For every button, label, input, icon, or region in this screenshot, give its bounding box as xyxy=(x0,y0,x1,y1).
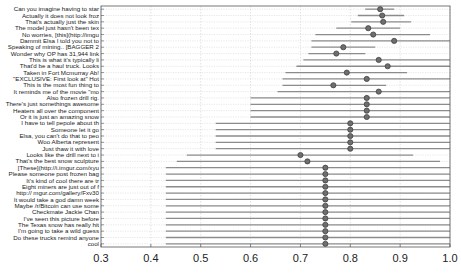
plot-frame xyxy=(101,6,450,247)
data-point xyxy=(323,229,328,234)
data-point xyxy=(380,13,385,18)
data-point xyxy=(323,190,328,195)
x-tick-label: 0.7 xyxy=(293,252,308,264)
data-point xyxy=(323,171,328,176)
data-point xyxy=(364,102,369,107)
data-point xyxy=(364,114,369,119)
data-point xyxy=(378,7,383,12)
data-point xyxy=(344,70,349,75)
data-points xyxy=(298,7,397,247)
data-point xyxy=(348,140,353,145)
data-point xyxy=(364,108,369,113)
x-tick-label: 0.6 xyxy=(243,252,258,264)
data-point xyxy=(305,159,310,164)
data-point xyxy=(348,127,353,132)
grid-lines xyxy=(101,6,450,247)
data-point xyxy=(331,83,336,88)
data-point xyxy=(348,146,353,151)
data-point xyxy=(376,89,381,94)
data-point xyxy=(298,152,303,157)
y-axis-ticks xyxy=(101,9,104,244)
x-tick-label: 0.5 xyxy=(193,252,208,264)
data-point xyxy=(323,165,328,170)
data-point xyxy=(348,133,353,138)
interval-bars xyxy=(166,9,450,244)
data-point xyxy=(366,26,371,31)
data-point xyxy=(323,197,328,202)
data-point xyxy=(323,222,328,227)
data-point xyxy=(364,76,369,81)
data-point xyxy=(385,64,390,69)
x-tick-label: 0.8 xyxy=(343,252,358,264)
data-point xyxy=(323,241,328,246)
data-point xyxy=(364,95,369,100)
x-tick-label: 1.0 xyxy=(442,252,457,264)
y-axis-labels: Can you imagine having to starActually i… xyxy=(6,5,100,247)
x-tick-label: 0.3 xyxy=(93,252,108,264)
data-point xyxy=(323,184,328,189)
data-point xyxy=(381,19,386,24)
data-point xyxy=(341,45,346,50)
data-point xyxy=(323,178,328,183)
data-point xyxy=(323,235,328,240)
x-tick-label: 0.4 xyxy=(143,252,158,264)
data-point xyxy=(392,38,397,43)
interval-dot-chart: Can you imagine having to starActually i… xyxy=(0,0,461,274)
figure-caption-cutoff xyxy=(140,266,340,274)
data-point xyxy=(334,51,339,56)
data-point xyxy=(323,210,328,215)
data-point xyxy=(376,57,381,62)
data-point xyxy=(323,216,328,221)
y-category-label: Do these trucks remind anyone xyxy=(13,234,99,241)
x-tick-label: 0.9 xyxy=(392,252,407,264)
y-category-label: cool xyxy=(88,240,99,247)
data-point xyxy=(348,121,353,126)
data-point xyxy=(323,203,328,208)
data-point xyxy=(371,32,376,37)
